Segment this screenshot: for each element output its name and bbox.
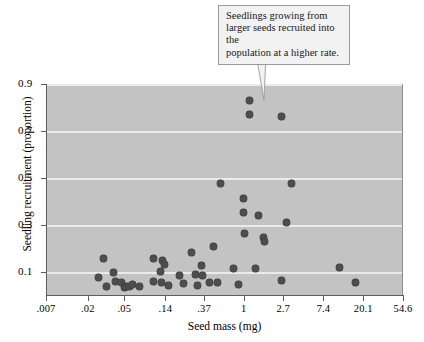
gridline	[46, 84, 402, 86]
x-axis-tick-label: .14	[159, 303, 172, 314]
x-axis-tick-label: .37	[197, 303, 210, 314]
scatter-plot-figure: 0.90.70.50.30.1 .007.02.05.14.3712.77.42…	[0, 0, 424, 342]
x-axis-tick-mark	[283, 296, 284, 301]
x-axis-tick-label: .02	[81, 303, 94, 314]
data-point	[194, 282, 201, 289]
y-axis-tick-mark	[41, 84, 46, 85]
data-point	[198, 262, 205, 269]
x-axis-title: Seed mass (mg)	[46, 320, 403, 332]
x-axis-tick-mark	[204, 296, 205, 301]
x-axis-tick-label: .05	[118, 303, 131, 314]
x-axis-line	[46, 295, 404, 296]
callout-line-1: Seedlings growing from	[226, 10, 343, 22]
callout-box: Seedlings growing from larger seeds recr…	[218, 5, 350, 65]
data-point	[210, 243, 217, 250]
gridline	[46, 225, 402, 227]
gridline	[46, 178, 402, 180]
data-point	[241, 230, 248, 237]
x-axis-tick-label: 2.7	[277, 303, 290, 314]
data-point	[240, 195, 247, 202]
data-point	[192, 271, 199, 278]
x-axis-tick-mark	[46, 296, 47, 301]
data-point	[136, 283, 143, 290]
y-axis-tick-mark	[41, 178, 46, 179]
x-axis-tick-mark	[363, 296, 364, 301]
x-axis-tick-label: .007	[37, 303, 56, 314]
data-point	[206, 279, 213, 286]
x-axis-tick-mark	[165, 296, 166, 301]
data-point	[165, 282, 172, 289]
data-point	[161, 261, 168, 268]
x-axis-tick-mark	[88, 296, 89, 301]
y-axis-tick-mark	[41, 272, 46, 273]
x-axis-tick-mark	[403, 296, 404, 301]
y-axis-title: Seedling recruitment (proportion)	[21, 59, 33, 289]
callout-text: Seedlings growing from larger seeds recr…	[226, 10, 343, 59]
data-point	[336, 264, 343, 271]
callout-line-2: larger seeds recruited into the	[226, 22, 343, 46]
data-point	[278, 113, 285, 120]
x-axis-tick-label: 7.4	[317, 303, 330, 314]
x-axis-tick-label: 1	[241, 303, 246, 314]
data-point	[158, 279, 165, 286]
plot-area	[46, 84, 403, 295]
data-point	[214, 279, 221, 286]
data-point	[352, 279, 359, 286]
y-axis-tick-mark	[41, 225, 46, 226]
data-point	[103, 283, 110, 290]
data-point	[283, 219, 290, 226]
y-axis-tick-mark	[41, 131, 46, 132]
data-point	[188, 249, 195, 256]
x-axis-tick-mark	[323, 296, 324, 301]
gridline	[46, 272, 402, 274]
x-axis-tick-mark	[244, 296, 245, 301]
y-axis-line	[46, 84, 47, 296]
gridline	[46, 131, 402, 133]
x-axis-tick-label: 54.6	[394, 303, 413, 314]
data-point	[176, 272, 183, 279]
callout-line-3: population at a higher rate.	[226, 47, 343, 59]
x-axis-tick-label: 20.1	[354, 303, 373, 314]
x-axis-tick-mark	[124, 296, 125, 301]
